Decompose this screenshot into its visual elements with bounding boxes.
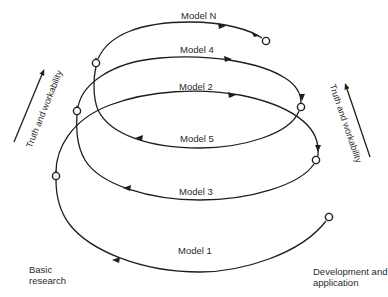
node-right-1 bbox=[312, 156, 319, 163]
node-left-1 bbox=[52, 172, 59, 179]
model-2-label: Model 2 bbox=[179, 82, 213, 92]
basic-research-line-1: Basic bbox=[29, 264, 66, 275]
arrow-icon bbox=[123, 185, 131, 191]
model-n-label: Model N bbox=[181, 11, 216, 21]
development-line-2: application bbox=[313, 277, 387, 288]
model-5-label: Model 5 bbox=[180, 134, 214, 144]
model-1-label: Model 1 bbox=[178, 246, 212, 256]
model-4-label: Model 4 bbox=[180, 45, 214, 55]
arrow-icon bbox=[251, 31, 258, 37]
development-line-1: Development and bbox=[313, 266, 387, 277]
node-left-3 bbox=[92, 59, 99, 66]
arrow-icon bbox=[224, 56, 232, 62]
node-end bbox=[262, 37, 269, 44]
node-right-2 bbox=[297, 103, 304, 110]
model-3-label: Model 3 bbox=[179, 187, 213, 197]
node-left-2 bbox=[73, 107, 80, 114]
basic-research-label: Basic research bbox=[29, 264, 66, 286]
basic-research-line-2: research bbox=[29, 275, 66, 286]
arrow-icon bbox=[112, 257, 120, 263]
development-application-label: Development and application bbox=[313, 266, 387, 288]
arrow-icon bbox=[228, 92, 236, 98]
node-start bbox=[325, 213, 332, 220]
arrow-icon bbox=[315, 145, 321, 152]
